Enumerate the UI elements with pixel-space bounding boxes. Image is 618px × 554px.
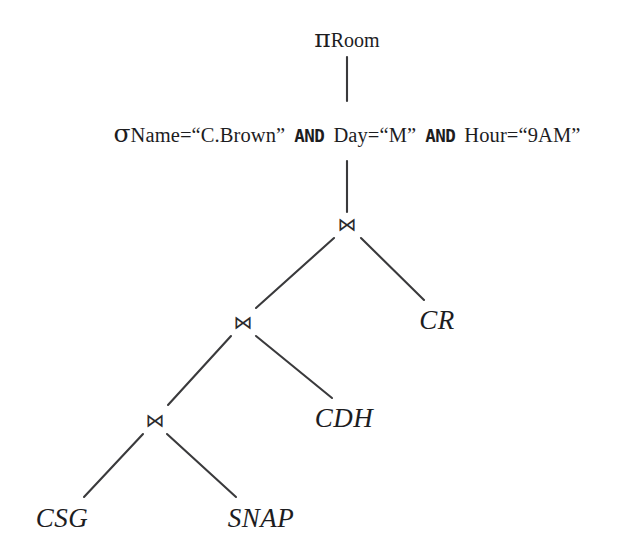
- relation-label: CR: [419, 305, 455, 335]
- query-tree-diagram: πRoom σName=“C.Brown”ANDDay=“M”ANDHour=“…: [0, 0, 618, 554]
- edge-join-top-join-mid: [256, 238, 334, 308]
- relation-csg: CSG: [36, 505, 89, 532]
- selection-node: σName=“C.Brown”ANDDay=“M”ANDHour=“9AM”: [113, 121, 580, 146]
- projection-node: πRoom: [314, 26, 379, 51]
- selection-predicate-term-1: Name=“C.Brown”: [131, 124, 286, 146]
- pi-symbol: π: [314, 24, 330, 53]
- tree-edges: [0, 0, 618, 554]
- selection-logical-operator-1: AND: [294, 126, 324, 146]
- edge-join-low-rel-snap: [167, 434, 236, 497]
- relation-snap: SNAP: [228, 505, 295, 532]
- edge-join-top-rel-cr: [361, 238, 424, 300]
- edge-join-mid-rel-cdh: [256, 336, 332, 398]
- relation-label: SNAP: [228, 503, 295, 533]
- sigma-symbol: σ: [113, 119, 130, 148]
- bowtie-icon: ⋈: [234, 311, 253, 333]
- join-node-top: ⋈: [338, 215, 357, 234]
- relation-label: CDH: [315, 403, 374, 433]
- projection-attribute-list: Room: [331, 29, 380, 51]
- bowtie-icon: ⋈: [338, 213, 357, 235]
- relation-label: CSG: [36, 503, 89, 533]
- relation-cdh: CDH: [315, 405, 374, 432]
- join-node-lower: ⋈: [146, 411, 165, 430]
- bowtie-icon: ⋈: [146, 409, 165, 431]
- edge-join-low-rel-csg: [84, 434, 143, 497]
- selection-predicate-term-3: Hour=“9AM”: [464, 124, 580, 146]
- edge-join-mid-join-low: [168, 336, 231, 405]
- relation-cr: CR: [419, 307, 455, 334]
- selection-logical-operator-2: AND: [425, 126, 455, 146]
- join-node-middle: ⋈: [234, 313, 253, 332]
- selection-predicate-term-2: Day=“M”: [333, 124, 416, 146]
